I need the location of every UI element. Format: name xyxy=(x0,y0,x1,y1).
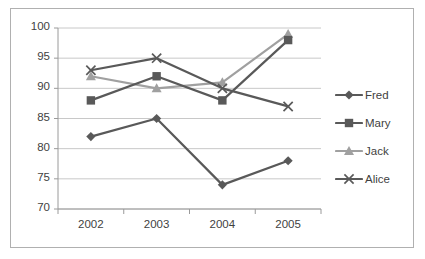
legend-item-jack[interactable]: Jack xyxy=(335,137,415,165)
legend-marker-cross-icon xyxy=(335,172,363,186)
data-point-diamond xyxy=(284,156,293,165)
x-axis-tick-label: 2004 xyxy=(192,218,252,230)
legend-label: Fred xyxy=(365,89,389,101)
y-axis-tick-label: 100 xyxy=(20,20,50,32)
x-axis-tick-label: 2003 xyxy=(127,218,187,230)
legend-label: Mary xyxy=(365,117,391,129)
x-axis-tick-label: 2005 xyxy=(258,218,318,230)
y-axis-tick-label: 90 xyxy=(20,80,50,92)
legend-item-mary[interactable]: Mary xyxy=(335,109,415,137)
x-axis-tick-label: 2002 xyxy=(61,218,121,230)
legend-item-alice[interactable]: Alice xyxy=(335,165,415,193)
y-axis-tick-label: 80 xyxy=(20,141,50,153)
data-point-diamond xyxy=(344,90,353,99)
data-point-diamond xyxy=(86,132,95,141)
y-axis-tick-label: 75 xyxy=(20,171,50,183)
legend-item-fred[interactable]: Fred xyxy=(335,81,415,109)
data-point-square xyxy=(87,96,95,104)
legend-marker-diamond-icon xyxy=(335,88,363,102)
legend-marker-square-icon xyxy=(335,116,363,130)
y-axis-tick-label: 85 xyxy=(20,111,50,123)
data-point-square xyxy=(284,36,292,44)
chart-frame: 100959085807570 2002200320042005 FredMar… xyxy=(10,8,414,248)
series-mary xyxy=(87,36,293,105)
series-jack xyxy=(86,29,293,92)
legend-marker-triangle-icon xyxy=(335,144,363,158)
series-fred xyxy=(86,114,292,190)
data-point-square xyxy=(152,72,160,80)
data-point-square xyxy=(218,96,226,104)
y-axis-tick-label: 95 xyxy=(20,50,50,62)
data-point-square xyxy=(345,119,353,127)
legend-label: Jack xyxy=(365,145,389,157)
chart-legend: FredMaryJackAlice xyxy=(335,81,415,193)
y-axis-tick-label: 70 xyxy=(20,201,50,213)
legend-label: Alice xyxy=(365,173,390,185)
series-alice xyxy=(86,54,292,111)
